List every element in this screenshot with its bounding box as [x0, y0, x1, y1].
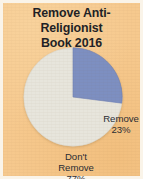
pie-label-remove-name: Remove	[95, 113, 143, 124]
pie-label-dont-remove-value: 77%	[47, 173, 105, 179]
pie-label-dont-remove-name-2: Remove	[47, 162, 105, 173]
pie-label-dont-remove: Don't Remove 77%	[47, 151, 105, 179]
pie-label-remove: Remove 23%	[95, 113, 143, 135]
chart-title: Remove Anti-Religionist Book 2016	[4, 6, 139, 51]
pie-slice-remove[interactable]	[73, 48, 122, 103]
chart-title-line-1: Remove Anti-Religionist	[4, 6, 139, 36]
chart-screenshot: Remove Anti-Religionist Book 2016 Remove…	[0, 0, 143, 179]
pie-chart: Remove 23% Don't Remove 77%	[23, 47, 123, 147]
pie-label-remove-value: 23%	[95, 124, 143, 135]
pie-label-dont-remove-name-1: Don't	[47, 151, 105, 162]
